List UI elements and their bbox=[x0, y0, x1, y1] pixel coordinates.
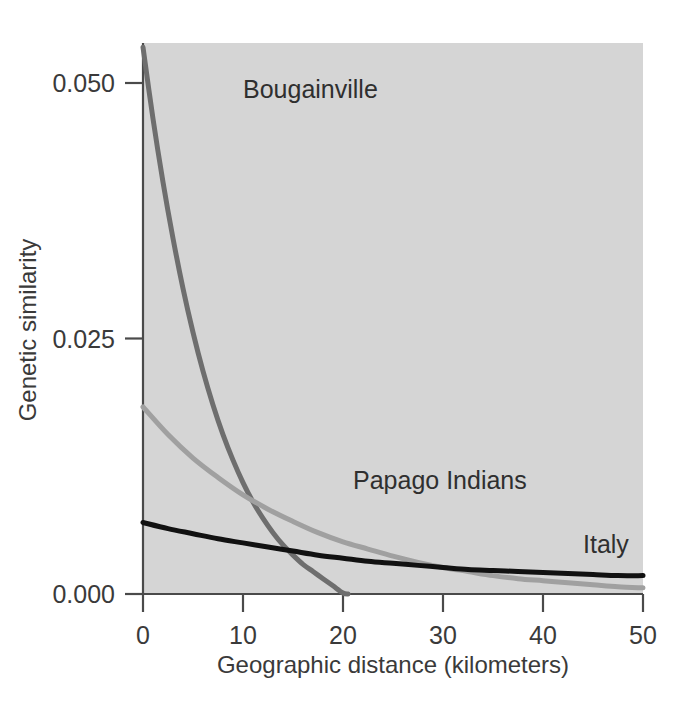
series-label-papago-indians: Papago Indians bbox=[353, 466, 527, 494]
x-axis-title: Geographic distance (kilometers) bbox=[217, 651, 569, 678]
x-tick-label: 10 bbox=[229, 621, 257, 649]
plot-area-background bbox=[143, 43, 643, 594]
genetic-similarity-line-chart: 0.0000.0250.050 01020304050 Bougainville… bbox=[0, 0, 691, 701]
x-tick-label: 50 bbox=[629, 621, 657, 649]
y-tick-label: 0.050 bbox=[52, 69, 115, 97]
x-tick-label: 20 bbox=[329, 621, 357, 649]
y-axis-ticks: 0.0000.0250.050 bbox=[52, 69, 143, 608]
x-axis-ticks: 01020304050 bbox=[136, 594, 657, 649]
y-tick-label: 0.000 bbox=[52, 580, 115, 608]
series-label-bougainville: Bougainville bbox=[243, 75, 378, 103]
x-tick-label: 40 bbox=[529, 621, 557, 649]
chart-figure: 0.0000.0250.050 01020304050 Bougainville… bbox=[0, 0, 691, 701]
y-axis-title: Genetic similarity bbox=[14, 239, 41, 422]
y-tick-label: 0.025 bbox=[52, 325, 115, 353]
x-tick-label: 30 bbox=[429, 621, 457, 649]
series-label-italy: Italy bbox=[583, 530, 629, 558]
x-tick-label: 0 bbox=[136, 621, 150, 649]
